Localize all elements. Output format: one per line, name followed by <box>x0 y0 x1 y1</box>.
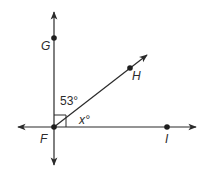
point-g <box>51 35 57 41</box>
angle-label-gfh: 53° <box>60 94 78 108</box>
ray-fh <box>54 55 147 127</box>
point-f <box>51 124 57 130</box>
label-f: F <box>40 132 48 146</box>
geometry-diagram: G H F I 53° x° <box>0 0 204 174</box>
point-i <box>164 124 170 130</box>
label-i: I <box>165 132 169 146</box>
angle-label-hfi: x° <box>78 113 90 127</box>
label-g: G <box>41 39 50 53</box>
label-h: H <box>132 69 141 83</box>
